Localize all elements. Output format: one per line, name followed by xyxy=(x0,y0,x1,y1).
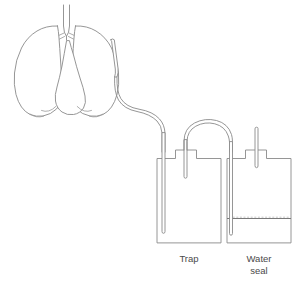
water-seal-bottle xyxy=(227,127,291,242)
water-seal-label-line1: Water xyxy=(247,253,272,264)
chest-drainage-diagram: Trap Water seal xyxy=(0,0,308,281)
labels-group: Trap Water seal xyxy=(179,253,271,276)
water-seal-inlet-tube xyxy=(230,142,233,235)
trap-bottle xyxy=(157,133,221,243)
trachea-icon xyxy=(64,5,70,40)
patient-to-trap-tube xyxy=(115,77,165,152)
water-seal-label-line2: seal xyxy=(250,265,267,276)
anatomy-group xyxy=(14,5,119,117)
trap-bottle-outline xyxy=(157,150,221,243)
diagram-canvas: Trap Water seal xyxy=(0,0,308,281)
trap-label: Trap xyxy=(179,253,198,264)
left-lung-icon xyxy=(14,26,62,116)
water-seal-vent-tube xyxy=(255,127,258,168)
trap-inlet-tube xyxy=(162,133,165,233)
trap-to-water-seal-tube xyxy=(184,119,233,152)
water-seal-bottle-outline xyxy=(227,150,291,243)
